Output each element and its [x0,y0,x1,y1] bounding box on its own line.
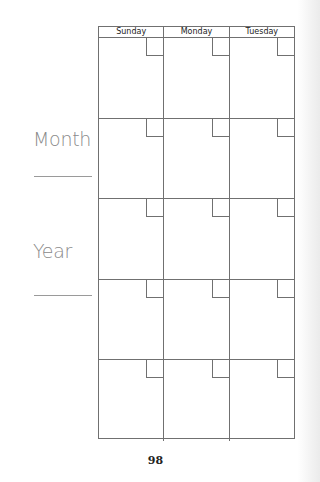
day-cell[interactable] [229,199,294,279]
date-box[interactable] [212,199,229,217]
week-row-3 [99,199,294,280]
date-box[interactable] [146,38,163,56]
day-header-tuesday: Tuesday [229,27,294,37]
day-cell[interactable] [229,360,294,441]
date-box[interactable] [212,38,229,56]
day-cell[interactable] [163,38,228,118]
date-box[interactable] [277,280,294,298]
date-box[interactable] [277,199,294,217]
day-cell[interactable] [99,119,163,199]
date-box[interactable] [146,360,163,378]
month-label: Month [33,128,91,150]
day-header-row: Sunday Monday Tuesday [99,27,294,38]
week-row-4 [99,280,294,361]
day-cell[interactable] [163,360,228,441]
day-header-monday: Monday [163,27,228,37]
page-number: 98 [0,454,311,467]
day-cell[interactable] [99,199,163,279]
date-box[interactable] [212,360,229,378]
date-box[interactable] [212,280,229,298]
day-cell[interactable] [99,38,163,118]
date-box[interactable] [146,119,163,137]
year-label: Year [33,240,72,262]
date-box[interactable] [146,280,163,298]
day-cell[interactable] [163,280,228,360]
year-write-line[interactable] [34,295,92,296]
date-box[interactable] [277,360,294,378]
day-cell[interactable] [229,280,294,360]
day-cell[interactable] [163,119,228,199]
date-box[interactable] [146,199,163,217]
calendar-grid: Sunday Monday Tuesday [98,26,295,439]
week-row-2 [99,119,294,200]
date-box[interactable] [212,119,229,137]
date-box[interactable] [277,119,294,137]
week-row-1 [99,38,294,119]
day-cell[interactable] [163,199,228,279]
date-box[interactable] [277,38,294,56]
week-row-5 [99,360,294,441]
day-cell[interactable] [99,280,163,360]
day-header-sunday: Sunday [99,27,163,37]
day-cell[interactable] [229,38,294,118]
day-cell[interactable] [99,360,163,441]
day-cell[interactable] [229,119,294,199]
month-write-line[interactable] [34,176,92,177]
